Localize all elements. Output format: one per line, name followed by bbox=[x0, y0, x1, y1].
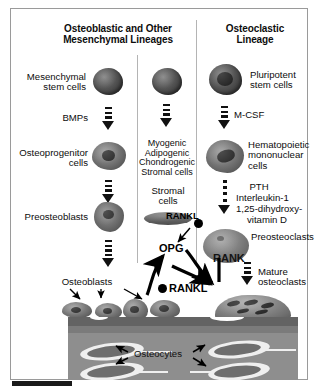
label-factor-interleukin1: Interleukin-1 bbox=[236, 192, 320, 203]
label-hematopoietic-line3: cells bbox=[248, 161, 318, 171]
label-stromal-cells-line2: cells bbox=[143, 196, 193, 206]
label-factor-vitd-line2: vitamin D bbox=[236, 214, 298, 225]
heading-osteoblastic: Osteoblastic and Other Mesenchymal Linea… bbox=[44, 24, 192, 46]
marker-rankl-stromal bbox=[194, 219, 203, 228]
arrow-other-mesenchymal-differentiation bbox=[163, 104, 170, 127]
label-osteocytes: Osteocytes bbox=[122, 349, 194, 359]
label-lineage-stromal: Stromal cells bbox=[139, 168, 195, 178]
label-rankl-osteoblast-text: RANKL bbox=[169, 282, 208, 294]
label-osteoblasts: Osteoblasts bbox=[46, 277, 128, 287]
cell-preosteoblast bbox=[94, 202, 124, 232]
label-factor-vitd-line1: 1,25-dihydroxy- bbox=[236, 203, 320, 214]
label-other-lineages: Myogenic Adipogenic Chondrogenic Stromal… bbox=[139, 139, 195, 178]
label-mature-osteoclasts: Mature osteoclasts bbox=[258, 267, 318, 288]
label-osteoprogenitor-line2: cells bbox=[8, 158, 88, 168]
heading-osteoclastic: Osteoclastic Lineage bbox=[205, 24, 305, 46]
cell-osteoblast-4 bbox=[150, 300, 180, 318]
label-preosteoclasts: Preosteoclasts bbox=[251, 232, 317, 242]
cell-pluripotent-stem bbox=[209, 64, 242, 95]
cell-osteoblast-1 bbox=[62, 302, 92, 318]
osteocyte-process-3 bbox=[264, 349, 296, 351]
label-osteoclast-factors: PTH Interleukin-1 1,25-dihydroxy- vitami… bbox=[236, 181, 320, 226]
label-mcsf: M-CSF bbox=[234, 110, 284, 120]
heading-osteoblastic-line2: Mesenchymal Lineages bbox=[44, 35, 192, 46]
label-preosteoblasts: Preosteoblasts bbox=[14, 212, 88, 222]
label-stromal-cells: Stromal cells bbox=[143, 186, 193, 207]
divider-mesenchymal-subcolumns bbox=[137, 55, 138, 263]
label-pluripotent-stem-cells: Pluripotent stem cells bbox=[250, 70, 316, 91]
arrow-mcsf-differentiation bbox=[221, 106, 228, 129]
cell-hematopoietic-mononuclear bbox=[206, 140, 244, 173]
bone-subsurface-layer bbox=[68, 326, 298, 333]
label-hematopoietic-cells: Hematopoietic mononuclear cells bbox=[248, 140, 318, 171]
osteocyte-process-4 bbox=[190, 371, 212, 373]
marker-rankl-osteoblast bbox=[158, 284, 167, 293]
label-mesenchymal-stem-cells: Mesenchymal stem cells bbox=[14, 72, 86, 93]
arrow-bmps-differentiation bbox=[105, 107, 112, 130]
label-factor-pth: PTH bbox=[236, 181, 282, 192]
label-osteoprogenitor-cells: Osteoprogenitor cells bbox=[8, 148, 88, 169]
scan-page-edge bbox=[12, 381, 72, 386]
label-osteoblasts-text: Osteoblasts bbox=[62, 276, 113, 287]
cell-osteoprogenitor bbox=[92, 142, 126, 170]
label-mature-line2: osteoclasts bbox=[258, 277, 318, 287]
label-rankl-osteoblast: RANKL bbox=[169, 283, 217, 295]
label-rank-text: RANK bbox=[213, 252, 245, 264]
label-preosteoblasts-text: Preosteoblasts bbox=[25, 211, 88, 222]
cell-mesenchymal-stem-other bbox=[152, 68, 182, 95]
label-mesenchymal-stem-cells-line2: stem cells bbox=[14, 82, 86, 92]
label-opg-text: OPG bbox=[159, 242, 183, 254]
heading-osteoclastic-line2: Lineage bbox=[205, 35, 305, 46]
osteocyte-process-2 bbox=[138, 371, 168, 373]
label-preosteoclasts-text: Preosteoclasts bbox=[251, 231, 314, 242]
cell-mesenchymal-stem bbox=[93, 68, 123, 95]
arrow-preosteoclast-to-mature bbox=[244, 262, 251, 285]
arrow-osteoclast-factors bbox=[221, 180, 228, 214]
arrow-progenitor-to-preosteoblast bbox=[105, 180, 112, 203]
figure-root: Osteoblastic and Other Mesenchymal Linea… bbox=[0, 0, 323, 389]
arrow-preosteoblast-to-osteoblast bbox=[105, 240, 112, 267]
label-osteocytes-text: Osteocytes bbox=[134, 348, 182, 359]
label-pluripotent-line2: stem cells bbox=[250, 80, 316, 90]
label-mcsf-text: M-CSF bbox=[234, 109, 264, 120]
label-rankl-stromal-text: RANKL bbox=[166, 210, 199, 221]
label-opg: OPG bbox=[159, 243, 193, 255]
label-bmps: BMPs bbox=[48, 113, 88, 123]
label-bmps-text: BMPs bbox=[62, 112, 88, 123]
